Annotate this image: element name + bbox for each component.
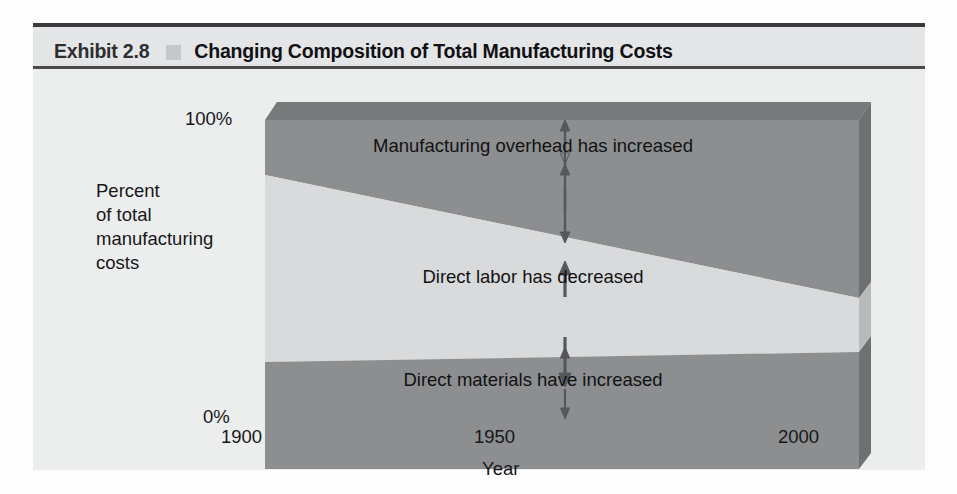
- x-tick-label-1950: 1950: [474, 426, 515, 448]
- exhibit-title: Changing Composition of Total Manufactur…: [194, 40, 672, 63]
- chart-top-face-3d: [265, 102, 871, 120]
- exhibit-number-label: Exhibit 2.8: [54, 40, 149, 63]
- exhibit-box: Exhibit 2.8 Changing Composition of Tota…: [33, 23, 925, 470]
- annotation-direct-materials: Direct materials have increased: [403, 369, 662, 391]
- title-row: Exhibit 2.8 Changing Composition of Tota…: [54, 37, 673, 65]
- band-direct-materials-side-face-3d: [859, 336, 871, 469]
- square-bullet-icon: [166, 45, 181, 60]
- stacked-area-chart: Manufacturing overhead has increased Dir…: [33, 69, 925, 470]
- y-axis-title-line-1: Percent: [96, 179, 213, 203]
- band-overhead-side-face-3d: [859, 102, 871, 298]
- y-axis-title-line-2: of total: [96, 203, 213, 227]
- x-axis-title: Year: [482, 458, 519, 480]
- exhibit-title-bar: Exhibit 2.8 Changing Composition of Tota…: [33, 27, 925, 66]
- x-tick-label-1900: 1900: [221, 426, 262, 448]
- x-tick-label-2000: 2000: [778, 426, 819, 448]
- page-root: Exhibit 2.8 Changing Composition of Tota…: [0, 0, 957, 494]
- annotation-direct-labor: Direct labor has decreased: [422, 266, 643, 288]
- annotation-manufacturing-overhead: Manufacturing overhead has increased: [373, 135, 693, 157]
- y-axis-title: Percent of total manufacturing costs: [96, 179, 213, 275]
- y-tick-label-0: 0%: [203, 406, 230, 428]
- y-axis-title-line-3: manufacturing: [96, 227, 213, 251]
- exhibit-body: Manufacturing overhead has increased Dir…: [33, 69, 925, 470]
- y-tick-label-100: 100%: [185, 108, 232, 130]
- y-axis-title-line-4: costs: [96, 251, 213, 275]
